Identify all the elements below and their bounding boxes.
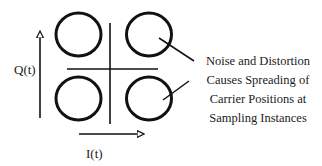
constellation-circle-bottom-left	[56, 77, 101, 120]
i-axis-label: I(t)	[86, 146, 103, 162]
annotation-line-1: Noise and Distortion	[196, 52, 320, 71]
annotation-line-3: Carrier Positions at	[196, 90, 320, 109]
annotation-line-2: Causes Spreading of	[196, 71, 320, 90]
annotation-line-4: Sampling Instances	[196, 109, 320, 128]
q-axis-label: Q(t)	[14, 62, 36, 78]
constellation-circle-top-right	[127, 13, 172, 56]
constellation-circle-top-left	[56, 13, 101, 56]
annotation-text: Noise and Distortion Causes Spreading of…	[196, 52, 320, 128]
